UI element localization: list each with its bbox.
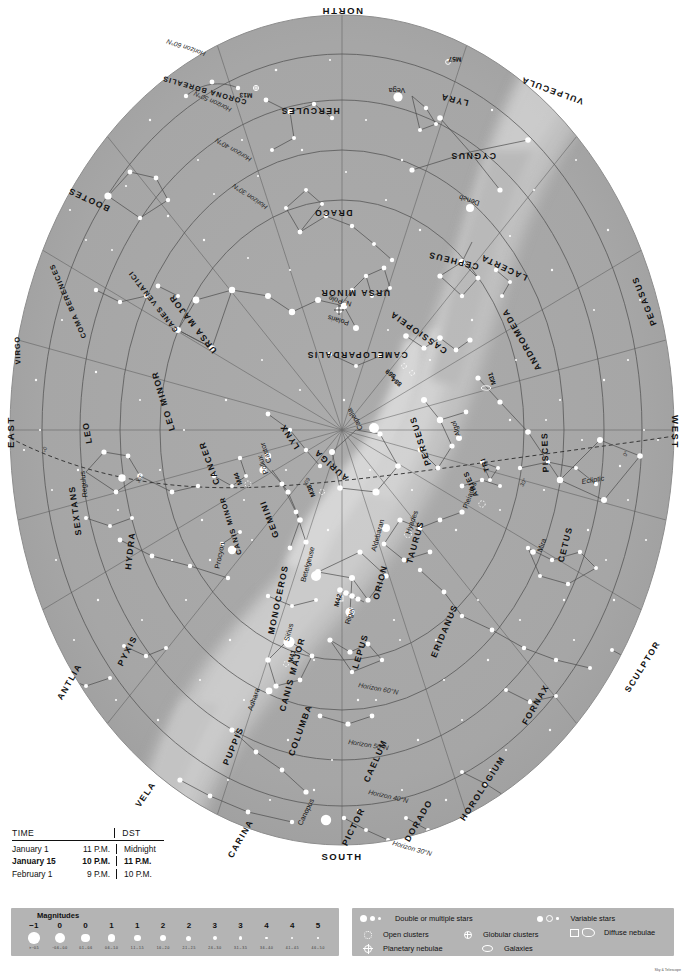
magnitude-entry: 11.1 – 1.5 (124, 920, 150, 951)
magnitude-entry: 43.6 – 4.0 (253, 920, 279, 951)
magnitude-value: 0 (58, 920, 62, 931)
legend-galaxies: Galaxies (482, 944, 533, 953)
magnitude-dot (28, 932, 40, 944)
legend-globular-clusters-label: Globular clusters (483, 930, 538, 939)
constellation-label-draco: DRACO (313, 208, 352, 218)
magnitude-entry: 21.6 – 2.0 (150, 920, 176, 951)
magnitude-value: 1 (135, 920, 139, 931)
magnitude-value: 5 (316, 920, 320, 931)
magnitude-dot-wrap (160, 931, 166, 945)
variable-star-icon (537, 915, 559, 922)
magnitude-dot (265, 937, 268, 940)
magnitude-dot-wrap (134, 931, 141, 945)
horizon-label-60n-top: Horizon 60°N (166, 38, 207, 58)
magnitude-value: 0 (83, 920, 87, 931)
time-row-date: January 15 (12, 856, 72, 866)
magnitude-range: 3.1 – 3.5 (234, 945, 247, 951)
magnitude-dot (291, 937, 293, 939)
constellation-label-pisces: PISCES (539, 432, 550, 473)
magnitude-dot-wrap (317, 931, 318, 945)
globular-cluster-icon (464, 931, 472, 939)
legend-planetary-nebulae-label: Planetary nebulae (383, 944, 443, 953)
cardinal-east: EAST (5, 416, 16, 448)
magnitude-value: 2 (187, 920, 191, 931)
cardinal-south: SOUTH (321, 851, 362, 862)
magnitude-dot-wrap (108, 931, 116, 945)
time-dst-table: TIME DST January 111 P.M.MidnightJanuary… (12, 828, 164, 879)
time-row-dst: 11 P.M. (116, 856, 164, 866)
time-row-date: February 1 (12, 869, 72, 879)
legend-variable-stars: Variable stars (537, 914, 615, 923)
magnitude-range: −0.6 – 0.0 (52, 945, 67, 951)
galaxy-icon (482, 945, 493, 952)
legend-variable-stars-label: Variable stars (571, 914, 616, 923)
magnitude-range: 4.1 – 4.5 (286, 945, 299, 951)
diffuse-nebula-icon (570, 928, 595, 937)
magnitude-value: 3 (238, 920, 242, 931)
legend-galaxies-label: Galaxies (504, 944, 533, 953)
magnitude-dot (186, 936, 191, 941)
magnitude-value: 4 (290, 920, 294, 931)
double-star-icon (360, 915, 381, 922)
magnitude-dot-wrap (265, 931, 268, 945)
time-row-standard: 10 P.M. (72, 856, 116, 866)
credit-text: Sky & Telescope (654, 968, 681, 972)
constellation-label-cygnus: CYGNUS (450, 151, 496, 161)
magnitude-dot-wrap (28, 931, 40, 945)
dso-label-m57: M57 (448, 56, 461, 63)
time-row-date: January 1 (12, 844, 72, 854)
constellation-label-vela: VELA (133, 780, 158, 809)
magnitude-range: 2.1 – 2.5 (182, 945, 195, 951)
horizon-label-30n-bottom: Horizon 30°N (392, 839, 433, 857)
magnitude-entry: 10.6 – 1.0 (98, 920, 124, 951)
symbol-legend: Double or multiple stars Variable stars … (352, 908, 674, 956)
magnitude-legend: Magnitudes −1> −0.50−0.6 – 0.000.1 – 0.6… (11, 908, 339, 956)
legend-diffuse-nebulae-label: Diffuse nebulae (604, 928, 655, 937)
magnitude-value: 3 (212, 920, 216, 931)
magnitude-dot (317, 937, 318, 938)
time-table-body: January 111 P.M.MidnightJanuary 1510 P.M… (12, 841, 164, 879)
meridian-lines (10, 15, 674, 845)
time-column-header: TIME (12, 828, 75, 838)
magnitude-dot (81, 934, 90, 943)
magnitude-range: 2.6 – 3.0 (208, 945, 221, 951)
magnitude-dot (134, 935, 141, 942)
planetary-nebula-icon (364, 945, 372, 953)
magnitude-range: 0.1 – 0.6 (79, 945, 92, 951)
magnitude-range: 3.6 – 4.0 (260, 945, 273, 951)
open-cluster-icon (364, 931, 372, 939)
magnitude-entry: 54.6 – 5.0 (305, 920, 331, 951)
time-table-row: February 19 P.M.10 P.M. (12, 866, 164, 879)
constellation-label-hercules: HERCULES (280, 106, 339, 116)
magnitude-dot-wrap (186, 931, 191, 945)
magnitude-range: > −0.5 (29, 945, 38, 951)
magnitude-dot (160, 935, 166, 941)
legend-double-stars: Double or multiple stars (360, 914, 473, 923)
constellation-label-sculptor: SCULPTOR (623, 639, 663, 694)
legend-globular-clusters: Globular clusters (464, 930, 538, 939)
magnitude-legend-title: Magnitudes (37, 911, 79, 920)
legend-double-stars-label: Double or multiple stars (395, 914, 473, 923)
magnitude-entry: 00.1 – 0.6 (73, 920, 99, 951)
time-row-dst: 10 P.M. (116, 869, 164, 879)
constellation-label-camelopardalis: CAMELOPARDALIS (306, 350, 408, 360)
magnitude-entry: 33.1 – 3.5 (228, 920, 254, 951)
magnitude-dot-wrap (291, 931, 293, 945)
cardinal-north: NORTH (321, 6, 363, 17)
dst-column-header: DST (114, 828, 164, 838)
magnitude-range: 4.6 – 5.0 (312, 945, 325, 951)
time-table-row: January 1510 P.M.11 P.M. (12, 854, 164, 867)
magnitude-value: 4 (264, 920, 268, 931)
time-row-standard: 11 P.M. (72, 844, 116, 854)
time-table-header: TIME DST (12, 828, 164, 841)
magnitude-dot-wrap (81, 931, 90, 945)
magnitude-range: 1.6 – 2.0 (157, 945, 170, 951)
magnitude-columns: −1> −0.50−0.6 – 0.000.1 – 0.610.6 – 1.01… (21, 920, 331, 951)
legend-planetary-nebulae: Planetary nebulae (364, 944, 443, 953)
legend-open-clusters-label: Open clusters (383, 930, 429, 939)
magnitude-value: −1 (29, 920, 38, 931)
magnitude-range: 0.6 – 1.0 (105, 945, 118, 951)
star-label-vega: Vega (389, 86, 405, 95)
time-row-standard: 9 P.M. (72, 869, 116, 879)
cardinal-west: WEST (670, 415, 681, 449)
